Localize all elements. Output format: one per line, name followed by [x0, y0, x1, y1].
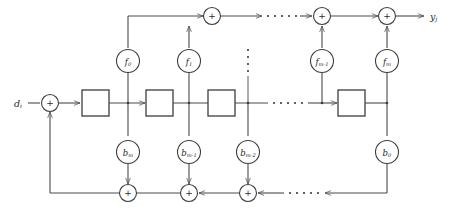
bottom-adder-2-symbol: +	[185, 188, 193, 198]
coefficient-f1[interactable]: f1	[178, 50, 201, 104]
input-adder-symbol: +	[46, 98, 54, 108]
coefficient-f-m-minus-1[interactable]: fm-1	[311, 50, 334, 104]
coefficient-bm-minus-2[interactable]: bm-2	[237, 141, 260, 185]
coefficient-b0[interactable]: b0	[376, 141, 399, 194]
feedback-return-path	[50, 112, 120, 193]
top-adder-3-symbol: +	[383, 11, 391, 21]
top-adder-2[interactable]: +	[314, 8, 331, 25]
input-adder[interactable]: +	[42, 95, 59, 112]
input-label: di	[14, 98, 22, 110]
top-wire-f0-to-adder1	[128, 16, 203, 48]
coefficient-f-m[interactable]: fm	[376, 50, 399, 104]
bottom-row-ellipsis	[289, 192, 319, 194]
bottom-adder-2[interactable]: +	[181, 185, 198, 202]
output-label: yj	[429, 11, 437, 24]
bottom-adder-3-symbol: +	[244, 188, 252, 198]
top-adder-3[interactable]: +	[379, 8, 396, 25]
delay-block-2[interactable]	[146, 90, 173, 116]
input-label-subscript: i	[20, 103, 22, 109]
vertical-ellipsis	[247, 49, 249, 103]
top-adder-1[interactable]: +	[204, 8, 221, 25]
flow-graph-canvas: + + + yj f0 f1	[0, 0, 454, 214]
wire-delay4-to-right-rail	[365, 103, 387, 136]
bottom-adder-1[interactable]: +	[120, 185, 137, 202]
middle-row-ellipsis	[273, 102, 303, 104]
coefficient-bm[interactable]: bm	[117, 141, 140, 185]
signal-flow-diagram: + + + yj f0 f1	[0, 0, 454, 214]
delay-block-3[interactable]	[208, 90, 235, 116]
top-adder-2-symbol: +	[318, 11, 326, 21]
top-row-ellipsis	[267, 15, 297, 17]
delay-block-4[interactable]	[338, 90, 365, 116]
bottom-adder-3[interactable]: +	[240, 185, 257, 202]
coefficient-bm-minus-1[interactable]: bm-1	[178, 141, 201, 185]
coefficient-f0[interactable]: f0	[117, 50, 140, 104]
bottom-adder-1-symbol: +	[124, 188, 132, 198]
delay-block-1[interactable]	[82, 90, 109, 116]
top-adder-1-symbol: +	[208, 11, 216, 21]
